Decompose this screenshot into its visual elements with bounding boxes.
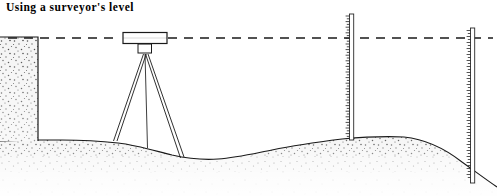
bank-fade-overlay: [0, 35, 40, 143]
tripod-leg-left-inner: [117, 54, 146, 141]
staff-far-graduations: [467, 31, 471, 178]
ground-profile: [0, 130, 497, 196]
surveying-diagram-svg: [0, 0, 497, 196]
staff-near-body: [350, 14, 354, 140]
leveling-staff-near: [346, 14, 354, 140]
tripod-leg-right-outer: [146, 54, 181, 158]
staff-near-graduations: [346, 16, 350, 136]
level-mount-block: [138, 44, 152, 53]
leveling-staff-far: [467, 28, 475, 183]
figure-container: Using a surveyor's level: [0, 0, 497, 196]
surveyors-level: [114, 33, 185, 159]
tripod-leg-left-outer: [114, 54, 144, 141]
staff-far-body: [471, 28, 475, 183]
embankment-wall: [0, 35, 40, 143]
diagram-scene: [0, 0, 497, 196]
tripod-leg-right-inner: [148, 54, 184, 157]
tripod-leg-center: [145, 54, 148, 148]
